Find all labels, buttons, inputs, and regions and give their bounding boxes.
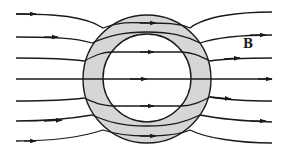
field-line-5 <box>16 97 272 106</box>
field-line-3 <box>16 52 272 61</box>
magnetic-field-label: B <box>243 37 253 51</box>
shell-inner-boundary <box>103 34 191 122</box>
shielding-diagram <box>0 0 286 155</box>
